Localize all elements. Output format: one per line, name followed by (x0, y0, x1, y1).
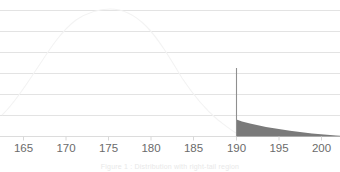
x-tick-label: 190 (227, 142, 246, 154)
x-tick-label: 170 (56, 142, 75, 154)
density-curve (2, 9, 236, 133)
x-tick-label: 180 (141, 142, 160, 154)
gridlines (0, 11, 340, 137)
chart-container: 165 170 175 180 185 190 195 200 Figure 1… (0, 0, 340, 172)
x-axis-tick-labels: 165 170 175 180 185 190 195 200 (14, 142, 331, 154)
shaded-tail-area (237, 120, 340, 137)
x-tick-label: 200 (312, 142, 331, 154)
x-tick-marks (24, 137, 322, 141)
distribution-chart: 165 170 175 180 185 190 195 200 Figure 1… (0, 0, 340, 172)
chart-caption: Figure 1 : Distribution with right-tail … (101, 163, 239, 171)
x-tick-label: 165 (14, 142, 33, 154)
x-tick-label: 175 (99, 142, 118, 154)
x-tick-label: 195 (269, 142, 288, 154)
x-tick-label: 185 (184, 142, 203, 154)
